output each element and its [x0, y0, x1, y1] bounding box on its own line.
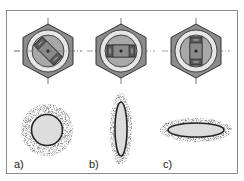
diagram-canvas — [0, 0, 244, 181]
deformation-c — [160, 118, 232, 142]
panel-label-b: b) — [89, 158, 99, 170]
fastener-b — [87, 18, 155, 84]
panel-label-a: a) — [14, 158, 24, 170]
panel-label-c: c) — [163, 158, 172, 170]
deformation-a — [21, 104, 73, 156]
fastener-c — [162, 18, 230, 84]
deformation-b — [110, 93, 132, 165]
fastener-a — [14, 18, 82, 84]
